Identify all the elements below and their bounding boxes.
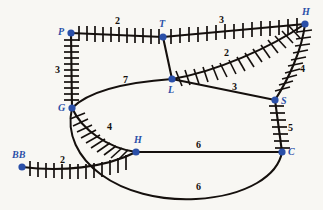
edge-weight-g-l: 7 bbox=[123, 75, 128, 85]
edge-weight-t-h-top: 3 bbox=[219, 15, 224, 25]
node-marker-h-top[interactable] bbox=[301, 20, 308, 27]
edge-s-c[interactable] bbox=[269, 100, 290, 152]
node-label-s: S bbox=[281, 96, 287, 106]
node-label-h-mid: H bbox=[134, 135, 142, 145]
edge-weight-p-g: 3 bbox=[55, 65, 60, 75]
node-marker-t[interactable] bbox=[159, 33, 166, 40]
graph-canvas bbox=[0, 0, 323, 210]
node-marker-h-mid[interactable] bbox=[132, 148, 139, 155]
node-marker-bb[interactable] bbox=[18, 163, 25, 170]
graph-diagram: P T H G L S H C BB 2 3 3 7 2 3 4 5 4 2 6… bbox=[0, 0, 323, 210]
edge-h-top-s[interactable] bbox=[275, 24, 312, 100]
node-marker-c[interactable] bbox=[278, 148, 285, 155]
edge-weight-bb-h-mid: 2 bbox=[60, 155, 65, 165]
node-label-p: P bbox=[58, 27, 64, 37]
edge-weight-h-mid-c: 6 bbox=[196, 140, 201, 150]
edge-t-h-top[interactable] bbox=[163, 18, 305, 44]
edge-p-t[interactable] bbox=[71, 26, 163, 44]
node-label-h-top: H bbox=[302, 7, 310, 17]
edge-bb-h-mid[interactable] bbox=[22, 152, 136, 179]
edge-weight-g-h-mid: 4 bbox=[107, 122, 112, 132]
edge-weight-h-top-s: 4 bbox=[300, 64, 305, 74]
edge-weight-l-s: 3 bbox=[232, 82, 237, 92]
node-label-c: C bbox=[288, 147, 295, 157]
edge-g-l[interactable] bbox=[72, 79, 172, 108]
node-label-bb: BB bbox=[12, 150, 25, 160]
node-label-t: T bbox=[159, 19, 165, 29]
edge-weight-s-c: 5 bbox=[288, 123, 293, 133]
node-marker-l[interactable] bbox=[168, 75, 175, 82]
edge-weight-l-h-top: 2 bbox=[224, 48, 229, 58]
node-label-g: G bbox=[58, 103, 65, 113]
edge-l-s[interactable] bbox=[172, 79, 275, 100]
edge-g-c-bottom[interactable] bbox=[70, 108, 282, 199]
node-marker-p[interactable] bbox=[67, 29, 74, 36]
edge-weight-p-t: 2 bbox=[115, 16, 120, 26]
edges-layer bbox=[22, 18, 312, 199]
edge-p-g[interactable] bbox=[64, 33, 79, 108]
node-marker-g[interactable] bbox=[68, 104, 75, 111]
node-label-l: L bbox=[168, 85, 174, 95]
edge-weight-g-c: 6 bbox=[196, 182, 201, 192]
node-marker-s[interactable] bbox=[271, 96, 278, 103]
